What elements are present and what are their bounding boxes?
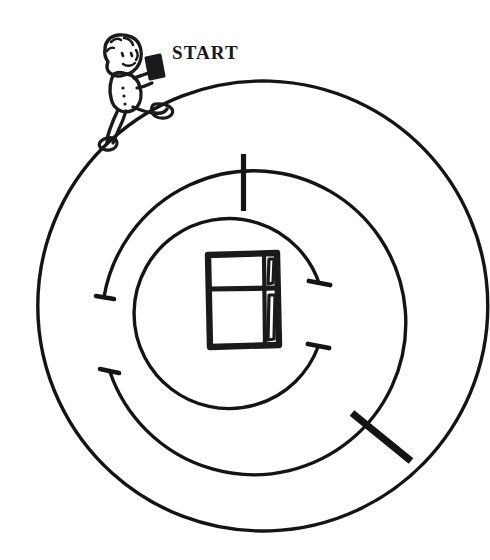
middle-ring-wall [96, 171, 406, 475]
start-label: START [172, 42, 239, 64]
inner-ring-endpoint-cap-lower [308, 344, 329, 348]
child-eye-left [122, 53, 123, 56]
refrigerator-handle-column [264, 254, 265, 346]
inner-ring-endpoint-cap-upper [309, 281, 330, 285]
child-box [146, 55, 164, 79]
middle-ring-endpoint-cap-lower [100, 369, 119, 373]
refrigerator-freezer-handle [268, 259, 274, 284]
maze-puzzle-canvas: START [0, 0, 490, 560]
refrigerator-icon [208, 253, 279, 347]
middle-ring-endpoint-cap-upper [96, 296, 114, 299]
child-button-3 [123, 102, 126, 105]
child-button-2 [122, 94, 125, 97]
child-eye-right [131, 53, 132, 56]
child-mouth [123, 63, 135, 66]
child-button-1 [121, 86, 124, 89]
refrigerator-door-divider [209, 288, 278, 289]
radial-wall-bottom-right [352, 413, 411, 461]
inner-ring-wall [134, 219, 330, 409]
refrigerator-door-handle [268, 295, 275, 340]
running-child-figure [99, 35, 172, 150]
maze-drawing [0, 0, 490, 560]
